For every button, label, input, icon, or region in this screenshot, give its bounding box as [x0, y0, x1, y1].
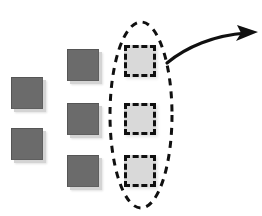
diagram-overlay	[0, 0, 262, 216]
diagram-canvas	[0, 0, 262, 216]
callout-arrow-line	[167, 33, 246, 63]
selection-ellipse[interactable]	[110, 22, 172, 208]
